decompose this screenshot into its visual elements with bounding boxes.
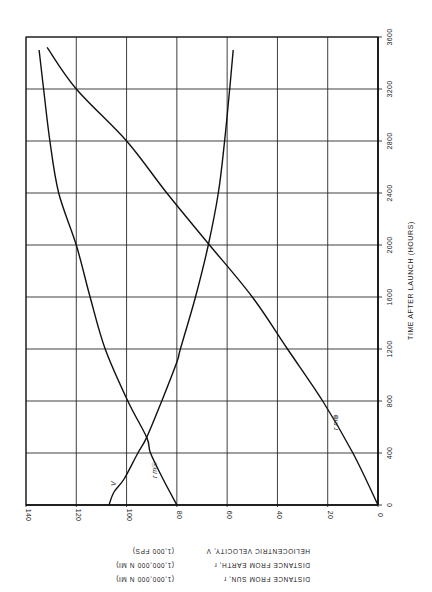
series-line-v bbox=[109, 50, 233, 505]
y-title-velocity: HELIOCENTRIC VELOCITY, V bbox=[206, 548, 310, 555]
time-tick-label: 1200 bbox=[386, 341, 393, 358]
time-tick-label: 0 bbox=[386, 503, 393, 507]
value-tick-label: 0 bbox=[377, 513, 384, 517]
time-tick-label: 3600 bbox=[386, 29, 393, 46]
time-tick-label: 3200 bbox=[386, 81, 393, 98]
chart-grid bbox=[26, 37, 382, 507]
time-tick-label: 2400 bbox=[386, 185, 393, 202]
x-axis-title: TIME AFTER LAUNCH (HOURS) bbox=[407, 221, 415, 340]
y-unit-sun: (1,000,000 N MI) bbox=[116, 575, 174, 583]
series-line-rm bbox=[39, 50, 177, 505]
chart-curves bbox=[39, 47, 378, 505]
curve-label-sun: r m☉ bbox=[151, 462, 158, 478]
curve-label-earth: r m⊕ bbox=[332, 414, 339, 430]
curve-label-v: V bbox=[110, 480, 117, 486]
time-tick-label: 1600 bbox=[386, 289, 393, 306]
value-tick-label: 40 bbox=[276, 511, 283, 519]
value-axis-ticks: 020406080100120140 bbox=[25, 509, 384, 522]
y-title-earth: DISTANCE FROM EARTH, r bbox=[214, 562, 310, 569]
time-tick-label: 2000 bbox=[386, 237, 393, 254]
y-unit-velocity: (1,000 FPS) bbox=[132, 547, 174, 555]
trajectory-chart: 04008001200160020002400280032003600 0204… bbox=[0, 0, 432, 592]
series-line-rm bbox=[47, 47, 378, 505]
time-axis-ticks: 04008001200160020002400280032003600 bbox=[386, 29, 393, 507]
time-tick-label: 2800 bbox=[386, 133, 393, 150]
value-tick-label: 20 bbox=[327, 511, 334, 519]
value-tick-label: 100 bbox=[126, 509, 133, 522]
y-axis-titles: HELIOCENTRIC VELOCITY, V (1,000 FPS) DIS… bbox=[116, 547, 310, 583]
y-unit-earth: (1,000,000 N MI) bbox=[116, 561, 174, 569]
value-tick-label: 140 bbox=[25, 509, 32, 522]
y-title-sun: DISTANCE FROM SUN, r bbox=[223, 576, 310, 583]
value-tick-label: 80 bbox=[176, 511, 183, 519]
time-tick-label: 800 bbox=[386, 395, 393, 408]
time-tick-label: 400 bbox=[386, 447, 393, 460]
value-tick-label: 120 bbox=[75, 509, 82, 522]
value-tick-label: 60 bbox=[226, 511, 233, 519]
